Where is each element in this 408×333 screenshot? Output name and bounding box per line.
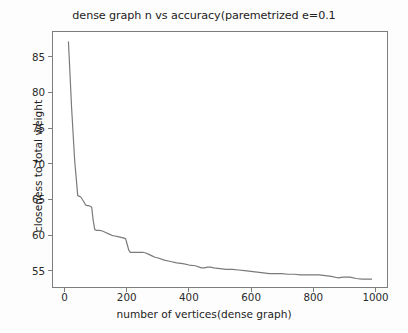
x-axis-label: number of vertices(dense graph) [0, 308, 408, 320]
y-tick-label: 55 [0, 265, 45, 277]
x-tick-label: 600 [241, 291, 261, 303]
y-tick-mark [48, 235, 52, 236]
x-tick-label: 0 [61, 291, 68, 303]
x-tick-label: 400 [179, 291, 199, 303]
y-tick-mark [48, 92, 52, 93]
y-tick-mark [48, 128, 52, 129]
y-axis-label: closeness to total weight [32, 66, 44, 266]
x-tick-label: 1000 [362, 291, 388, 303]
x-tick-label: 800 [304, 291, 324, 303]
chart-figure: dense graph n vs accuracy(paremetrized e… [0, 0, 408, 333]
axis-ticks: 5560657075808502004006008001000 [0, 0, 408, 333]
y-tick-mark [48, 56, 52, 57]
y-tick-mark [48, 163, 52, 164]
x-tick-label: 200 [117, 291, 137, 303]
y-tick-mark [48, 270, 52, 271]
y-tick-mark [48, 199, 52, 200]
y-tick-label: 85 [0, 51, 45, 63]
